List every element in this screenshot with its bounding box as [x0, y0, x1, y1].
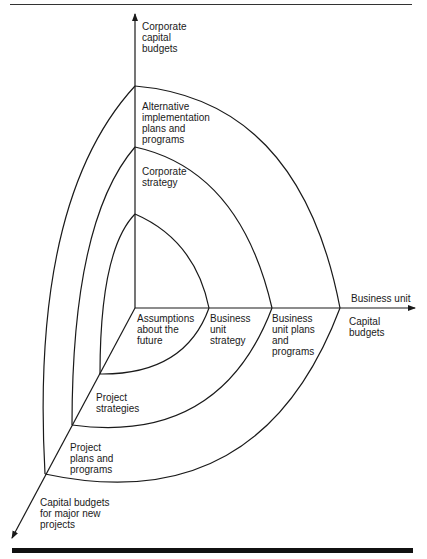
- region-alternative-implementation: Alternative implementation plans and pro…: [142, 101, 210, 145]
- region-project-plans: Project plans and programs: [70, 442, 113, 475]
- diagonal-axis-label: Capital budgets for major new projects: [40, 497, 110, 530]
- region-business-unit-plans: Business unit plans and programs: [272, 313, 315, 357]
- horizontal-axis-label-above: Business unit: [351, 293, 410, 304]
- horizontal-axis-label-below: Capital budgets: [349, 316, 385, 338]
- planning-diagram: [0, 0, 427, 559]
- region-business-unit-strategy: Business unit strategy: [210, 313, 251, 346]
- region-corporate-strategy: Corporate strategy: [142, 166, 186, 188]
- bottom-rule: [12, 548, 413, 553]
- inner-arc-top-left: [100, 214, 135, 374]
- outer-arc-top-left: [43, 86, 135, 474]
- inner-arc-top-right: [135, 214, 209, 308]
- vertical-axis-label: Corporate capital budgets: [142, 21, 186, 54]
- region-assumptions: Assumptions about the future: [137, 313, 194, 346]
- region-project-strategies: Project strategies: [96, 392, 139, 414]
- middle-arc-top-left: [72, 147, 135, 425]
